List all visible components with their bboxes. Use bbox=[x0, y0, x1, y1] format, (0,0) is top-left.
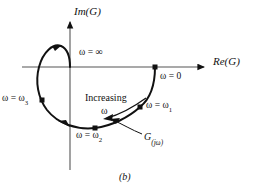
omega-one-value: ω bbox=[162, 100, 168, 110]
omega-infinity-label: ω = ∞ bbox=[79, 47, 103, 58]
omega-one-prefix: ω = bbox=[146, 100, 162, 110]
omega-two-subscript: 2 bbox=[99, 136, 102, 143]
curve-label-leader bbox=[113, 120, 142, 134]
omega-two-prefix: ω = bbox=[76, 130, 92, 140]
direction-arrow-lower bbox=[58, 120, 70, 127]
omega-infinity-prefix: ω = bbox=[79, 47, 95, 57]
omega-three-value: ω bbox=[18, 93, 24, 103]
omega-one-subscript: 1 bbox=[169, 106, 172, 113]
plot-canvas bbox=[0, 0, 255, 192]
nyquist-curve bbox=[37, 45, 155, 128]
marker-w-one bbox=[138, 105, 143, 110]
omega-three-prefix: ω = bbox=[2, 93, 18, 103]
direction-arrow-upper bbox=[52, 45, 62, 51]
omega-infinity-value: ∞ bbox=[95, 46, 102, 57]
omega-one-label: ω = ω1 bbox=[146, 101, 172, 113]
marker-w-three bbox=[40, 98, 45, 103]
figure-caption: (b) bbox=[119, 172, 131, 182]
real-axis-label: Re(G) bbox=[213, 56, 240, 67]
omega-zero-prefix: ω = bbox=[160, 71, 176, 81]
transfer-function-argument: (jω) bbox=[151, 139, 163, 147]
marker-w-zero bbox=[153, 65, 158, 70]
nyquist-plot-figure: Im(G) Re(G) ω = ∞ ω = 0 ω = ω3 ω = ω1 ω … bbox=[0, 0, 255, 192]
imaginary-axis-label: Im(G) bbox=[74, 6, 101, 17]
omega-zero-label: ω = 0 bbox=[160, 72, 181, 82]
increasing-label: Increasing bbox=[85, 93, 127, 103]
omega-zero-value: 0 bbox=[176, 71, 181, 81]
transfer-function-label: G(jω) bbox=[144, 132, 163, 145]
omega-two-label: ω = ω2 bbox=[76, 131, 102, 143]
omega-two-value: ω bbox=[92, 130, 98, 140]
omega-three-label: ω = ω3 bbox=[2, 94, 28, 106]
increasing-omega-symbol: ω bbox=[101, 106, 108, 116]
omega-three-subscript: 3 bbox=[25, 99, 28, 106]
